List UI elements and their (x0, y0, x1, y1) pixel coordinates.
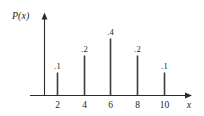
x-tick-label-2: 2 (55, 100, 60, 110)
stem-plot-svg: .1 .2 .4 .2 .1 2 4 6 8 10 P(x) x (0, 0, 204, 116)
data-label-x10: .1 (161, 61, 167, 71)
x-tick-label-10: 10 (160, 100, 170, 110)
probability-mass-function-figure: .1 .2 .4 .2 .1 2 4 6 8 10 P(x) x (0, 0, 204, 116)
data-label-x2: .1 (54, 61, 60, 71)
y-axis-label: P(x) (11, 10, 30, 22)
y-axis (42, 13, 48, 96)
x-tick-label-4: 4 (82, 100, 87, 110)
x-axis-arrowhead-icon (185, 93, 192, 99)
data-label-x4: .2 (81, 44, 87, 54)
x-axis-label: x (186, 99, 192, 110)
data-label-x6: .4 (107, 27, 114, 37)
y-axis-arrowhead-icon (42, 13, 48, 20)
x-tick-label-6: 6 (108, 100, 113, 110)
stem-group (58, 39, 165, 96)
x-tick-label-8: 8 (135, 100, 140, 110)
data-label-x8: .2 (134, 44, 140, 54)
